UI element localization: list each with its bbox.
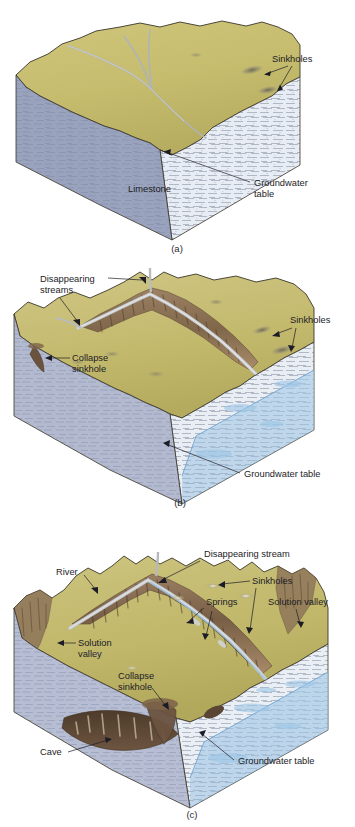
label-limestone-a: Limestone: [128, 184, 171, 194]
solution-valley-right-c-text: Solution valley: [268, 597, 328, 607]
panel-b-intermediate-karst: Disappearing streams Collapse sinkhole S…: [0, 258, 355, 516]
groundwater-a-line2: table: [254, 189, 274, 199]
collapse-sinkhole-b-line2: sinkhole: [72, 364, 106, 374]
sinkhole-c-3: [171, 595, 185, 601]
cave-c-text: Cave: [40, 747, 62, 757]
disappearing-streams-b-line1: Disappearing: [40, 274, 95, 284]
disappearing-streams-b-line2: streams: [40, 285, 73, 295]
sinkholes-a-text: Sinkholes: [272, 54, 313, 64]
caption-c: (c): [186, 809, 197, 820]
sinkhole-b-3: [208, 299, 224, 305]
disappearing-stream-c-text: Disappearing stream: [204, 549, 290, 559]
solution-valley-left-c-line1: Solution: [78, 638, 112, 648]
river-c-text: River: [56, 567, 78, 577]
sinkholes-c-text: Sinkholes: [252, 576, 293, 586]
caption-a: (a): [171, 243, 183, 254]
sinkhole-b-6: [146, 370, 166, 377]
solution-valley-left-c-line2: valley: [78, 649, 102, 659]
caption-b: (b): [174, 497, 186, 508]
groundwater-table-c-text: Groundwater table: [238, 756, 315, 766]
collapse-sinkhole-rim-c: [142, 698, 178, 710]
panel-c-late-karst: Disappearing stream River Sinkholes Spri…: [0, 512, 355, 827]
collapse-sinkhole-rim-b: [28, 343, 44, 349]
collapse-sinkhole-c-line1: Collapse: [118, 671, 154, 681]
groundwater-a-line1: Groundwater: [254, 178, 308, 188]
disappearing-stream-upper-b: [150, 268, 151, 292]
block-diagram-a: [16, 21, 300, 240]
groundwater-table-b-text: Groundwater table: [244, 469, 321, 479]
collapse-sinkhole-c-line2: sinkhole: [118, 682, 152, 692]
sinkhole-c-1: [205, 583, 221, 589]
panel-a-early-karst: Sinkholes Limestone Groundwater table (a…: [0, 0, 355, 260]
collapse-sinkhole-b-line1: Collapse: [72, 353, 108, 363]
sinkhole-a-3: [189, 52, 203, 57]
sinkhole-c-2: [237, 593, 255, 600]
block-diagram-c: [14, 552, 328, 808]
sinkholes-b-text: Sinkholes: [290, 315, 331, 325]
springs-c-text: Springs: [206, 597, 238, 607]
